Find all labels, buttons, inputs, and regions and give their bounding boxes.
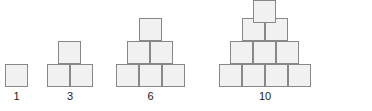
- square: [219, 64, 242, 87]
- square: [276, 41, 299, 64]
- square: [253, 0, 276, 23]
- triangular-number-figure: 1 3 6 10: [0, 0, 372, 111]
- square-group-10: 10: [0, 0, 372, 111]
- square: [242, 64, 265, 87]
- square: [253, 41, 276, 64]
- group-label-10: 10: [219, 90, 311, 103]
- square: [230, 41, 253, 64]
- square: [265, 64, 288, 87]
- square: [288, 64, 311, 87]
